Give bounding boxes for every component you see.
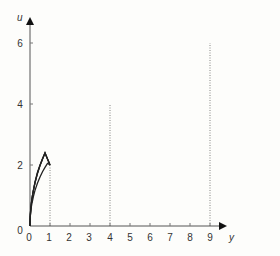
guide-lines: [50, 43, 210, 226]
x-tick-3: 3: [86, 232, 92, 243]
x-tick-1: 1: [46, 232, 52, 243]
x-tick-4: 4: [107, 232, 113, 243]
y-tick-0: 0: [17, 225, 23, 236]
x-tick-0: 0: [26, 232, 32, 243]
x-tick-5: 5: [127, 232, 133, 243]
y-axis-label: u: [17, 12, 23, 23]
x-tick-7: 7: [167, 232, 173, 243]
y-tick-2: 2: [17, 160, 23, 171]
y-tick-6: 6: [17, 38, 23, 49]
x-axis-label: y: [228, 232, 235, 243]
x-tick-6: 6: [147, 232, 153, 243]
x-axis-arrow-icon: [219, 222, 227, 230]
x-tick-8: 8: [187, 232, 193, 243]
chart: 0 1 2 3 4 5 6 7 8 9 0 2 4 6 u y: [0, 0, 280, 256]
y-tick-4: 4: [17, 99, 23, 110]
x-tick-2: 2: [66, 232, 72, 243]
y-axis-arrow-icon: [26, 17, 34, 25]
x-tick-9: 9: [207, 232, 213, 243]
